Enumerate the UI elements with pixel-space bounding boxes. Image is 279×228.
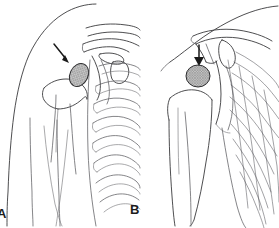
- anatomy-illustration: [0, 0, 279, 228]
- panel-b-pointer-arrow: [194, 45, 204, 66]
- panel-a-acromion: [82, 39, 139, 52]
- panel-label-b: B: [130, 203, 139, 216]
- panel-b-soft-tissue-outline: [161, 6, 278, 71]
- panel-b-glenoid: [216, 61, 233, 133]
- panel-a-pointer-arrow: [54, 44, 69, 63]
- panel-a-soft-tissue-outline: [7, 4, 96, 226]
- panel-a-group: [7, 4, 140, 226]
- figure-container: A B: [0, 0, 279, 228]
- panel-b-rib-cage: [222, 52, 279, 228]
- panel-b-mass-lesion: [186, 65, 210, 87]
- panel-b-group: [161, 6, 279, 228]
- panel-b-humerus: [168, 90, 212, 226]
- panel-b-coracoid: [219, 40, 236, 68]
- panel-label-a: A: [0, 207, 6, 220]
- panel-a-clavicle: [86, 24, 140, 38]
